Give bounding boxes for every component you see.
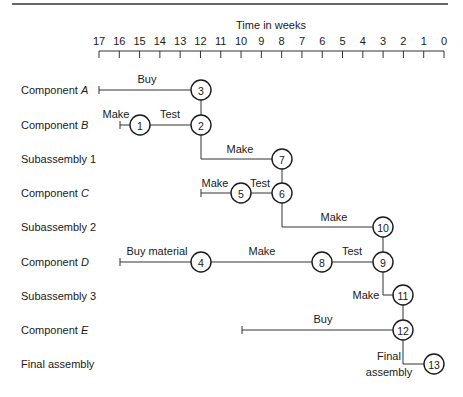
row-labels: Component A Component B Subassembly 1 Co… bbox=[21, 84, 96, 370]
axis-tick-label: 9 bbox=[258, 35, 264, 47]
axis-ticks bbox=[99, 51, 444, 58]
node-12: 12 bbox=[393, 320, 413, 340]
svg-text:7: 7 bbox=[279, 154, 285, 166]
row-label-component-d: Component D bbox=[21, 256, 89, 268]
activity-labels: Buy Make Test Make Make Test Make Buy ma… bbox=[103, 73, 413, 378]
axis-tick-label: 17 bbox=[93, 35, 105, 47]
activity-label-b-test: Test bbox=[160, 108, 180, 120]
node-10: 10 bbox=[373, 217, 393, 237]
svg-text:8: 8 bbox=[319, 257, 325, 269]
node-8: 8 bbox=[312, 252, 332, 272]
row-label-component-b: Component B bbox=[21, 119, 88, 131]
svg-text:13: 13 bbox=[428, 359, 440, 371]
axis-tick-label: 2 bbox=[400, 35, 406, 47]
time-axis: Time in weeks 17161514131211109876543210 bbox=[93, 19, 447, 58]
svg-text:11: 11 bbox=[398, 290, 409, 302]
activity-label-final-2: assembly bbox=[366, 366, 413, 378]
axis-title: Time in weeks bbox=[236, 19, 306, 31]
svg-text:6: 6 bbox=[279, 188, 285, 200]
activity-label-sub1-make: Make bbox=[227, 143, 254, 155]
activity-label-c-test: Test bbox=[250, 177, 270, 189]
activity-label-sub2-make: Make bbox=[321, 211, 348, 223]
axis-tick-label: 13 bbox=[174, 35, 186, 47]
axis-tick-label: 7 bbox=[299, 35, 305, 47]
axis-tick-label: 11 bbox=[215, 35, 226, 47]
svg-text:3: 3 bbox=[198, 85, 204, 97]
axis-tick-label: 12 bbox=[194, 35, 206, 47]
activity-label-d-make: Make bbox=[249, 245, 276, 257]
svg-text:2: 2 bbox=[198, 120, 204, 132]
row-label-subassembly-1: Subassembly 1 bbox=[21, 153, 96, 165]
activity-label-d-test: Test bbox=[342, 245, 362, 257]
row-label-component-a: Component A bbox=[21, 84, 88, 96]
axis-tick-label: 4 bbox=[360, 35, 366, 47]
row-label-final-assembly: Final assembly bbox=[21, 358, 95, 370]
axis-tick-label: 10 bbox=[235, 35, 247, 47]
svg-text:5: 5 bbox=[238, 188, 244, 200]
activity-label-d-buy-material: Buy material bbox=[126, 245, 187, 257]
svg-text:9: 9 bbox=[380, 257, 386, 269]
row-label-component-c: Component C bbox=[21, 187, 89, 199]
node-6: 6 bbox=[272, 183, 292, 203]
node-13: 13 bbox=[424, 354, 444, 374]
activity-label-b-make: Make bbox=[103, 108, 130, 120]
axis-tick-label: 6 bbox=[319, 35, 325, 47]
axis-tick-label: 3 bbox=[380, 35, 386, 47]
axis-tick-labels: 17161514131211109876543210 bbox=[93, 35, 447, 47]
node-7: 7 bbox=[272, 149, 292, 169]
node-2: 2 bbox=[191, 115, 211, 135]
node-4: 4 bbox=[191, 252, 211, 272]
axis-tick-label: 0 bbox=[441, 35, 447, 47]
svg-text:1: 1 bbox=[137, 120, 143, 132]
activity-label-a-buy: Buy bbox=[138, 73, 157, 85]
axis-tick-label: 1 bbox=[421, 35, 427, 47]
row-label-subassembly-2: Subassembly 2 bbox=[21, 221, 96, 233]
node-1: 1 bbox=[130, 115, 150, 135]
axis-tick-label: 14 bbox=[154, 35, 166, 47]
activity-label-e-buy: Buy bbox=[314, 313, 333, 325]
node-5: 5 bbox=[231, 183, 251, 203]
activity-label-final-1: Final bbox=[377, 350, 401, 362]
bill-of-materials-time-phased-diagram: Time in weeks 17161514131211109876543210… bbox=[0, 0, 463, 397]
axis-tick-label: 16 bbox=[113, 35, 125, 47]
axis-tick-label: 15 bbox=[133, 35, 145, 47]
row-label-subassembly-3: Subassembly 3 bbox=[21, 290, 96, 302]
axis-tick-label: 5 bbox=[339, 35, 345, 47]
row-label-component-e: Component E bbox=[21, 324, 89, 336]
node-9: 9 bbox=[373, 252, 393, 272]
activity-label-c-make: Make bbox=[202, 177, 229, 189]
node-11: 11 bbox=[393, 285, 413, 305]
svg-text:12: 12 bbox=[397, 325, 409, 337]
svg-text:4: 4 bbox=[198, 257, 204, 269]
node-3: 3 bbox=[191, 80, 211, 100]
svg-text:10: 10 bbox=[377, 222, 389, 234]
activity-label-sub3-make: Make bbox=[353, 289, 380, 301]
axis-tick-label: 8 bbox=[279, 35, 285, 47]
